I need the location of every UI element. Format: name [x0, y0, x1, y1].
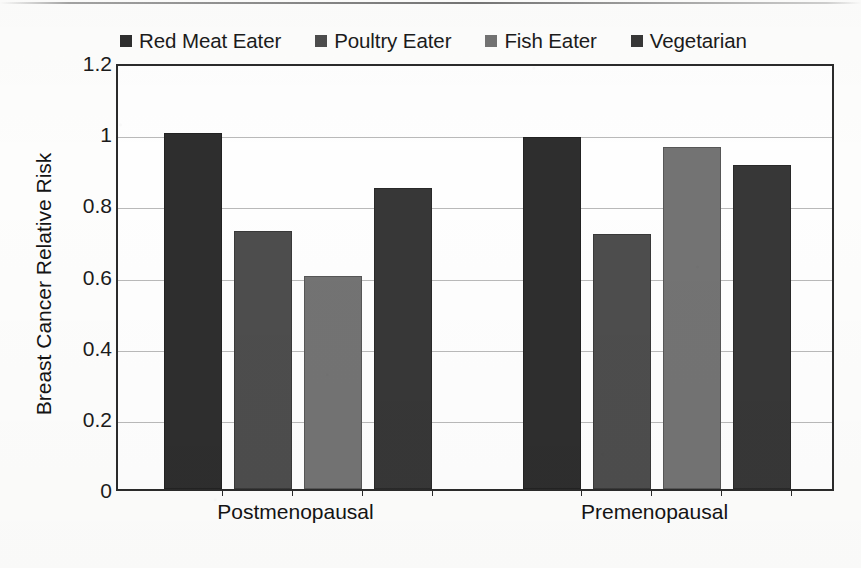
y-tick-label: 0.4 — [12, 337, 112, 361]
y-tick-label: 1 — [12, 123, 112, 147]
y-tick-label: 0.6 — [12, 266, 112, 290]
legend-item: Poultry Eater — [315, 29, 451, 53]
bar — [164, 133, 222, 489]
gridline — [118, 422, 832, 423]
bar — [304, 276, 362, 489]
plot-area — [116, 64, 834, 491]
legend-swatch-icon — [315, 35, 327, 47]
x-tick-mark — [721, 489, 722, 496]
chart-figure: Red Meat EaterPoultry EaterFish EaterVeg… — [0, 0, 861, 568]
legend-label: Poultry Eater — [334, 29, 451, 53]
bar — [663, 147, 721, 489]
scan-edge-line — [0, 2, 861, 4]
x-axis: PostmenopausalPremenopausal — [116, 500, 834, 540]
gridline — [118, 137, 832, 138]
gridline — [118, 208, 832, 209]
legend-swatch-icon — [485, 35, 497, 47]
legend-label: Vegetarian — [650, 29, 747, 53]
chart-legend: Red Meat EaterPoultry EaterFish EaterVeg… — [120, 28, 820, 54]
legend-item: Fish Eater — [485, 29, 596, 53]
legend-swatch-icon — [631, 35, 643, 47]
x-tick-mark — [222, 489, 223, 496]
y-axis: Breast Cancer Relative Risk 00.20.40.60.… — [4, 64, 112, 491]
legend-swatch-icon — [120, 35, 132, 47]
x-tick-mark — [362, 489, 363, 496]
gridline — [118, 351, 832, 352]
y-tick-label: 1.2 — [12, 52, 112, 76]
y-tick-label: 0.2 — [12, 408, 112, 432]
y-tick-label: 0 — [12, 479, 112, 503]
gridline — [118, 280, 832, 281]
legend-item: Vegetarian — [631, 29, 747, 53]
bar — [593, 234, 651, 489]
x-tick-mark — [791, 489, 792, 496]
bar — [523, 137, 581, 489]
legend-label: Fish Eater — [504, 29, 596, 53]
x-tick-mark — [651, 489, 652, 496]
bar — [733, 165, 791, 489]
x-tick-label: Premenopausal — [581, 500, 728, 524]
bar — [234, 231, 292, 489]
x-tick-mark — [292, 489, 293, 496]
legend-label: Red Meat Eater — [139, 29, 281, 53]
x-tick-label: Postmenopausal — [217, 500, 373, 524]
bar — [374, 188, 432, 489]
x-tick-mark — [432, 489, 433, 496]
legend-item: Red Meat Eater — [120, 29, 281, 53]
x-tick-mark — [581, 489, 582, 496]
y-tick-label: 0.8 — [12, 194, 112, 218]
